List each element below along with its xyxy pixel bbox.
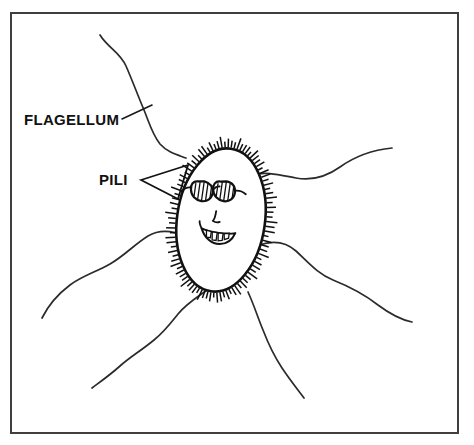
pilus bbox=[169, 222, 175, 223]
bacterium-diagram: FLAGELLUM PILI bbox=[0, 0, 474, 445]
label-flagellum-text: FLAGELLUM bbox=[24, 111, 119, 128]
pilus bbox=[231, 141, 232, 148]
pilus bbox=[267, 211, 274, 213]
pilus bbox=[170, 232, 175, 234]
pilus bbox=[267, 216, 273, 217]
label-pili-text: PILI bbox=[99, 171, 128, 188]
pilus bbox=[213, 293, 214, 298]
tooth bbox=[211, 232, 217, 241]
tooth bbox=[205, 230, 211, 238]
pilus bbox=[172, 208, 178, 209]
tooth bbox=[217, 233, 223, 242]
diagram-canvas: FLAGELLUM PILI bbox=[0, 0, 474, 445]
pilus bbox=[264, 236, 269, 237]
